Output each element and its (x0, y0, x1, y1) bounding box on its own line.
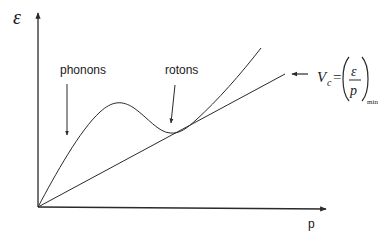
x-axis-label: p (308, 217, 315, 231)
formula-right-paren (362, 57, 368, 101)
phonons-label: phonons (60, 63, 106, 77)
critical-velocity-formula: V c = ε p min (317, 57, 378, 106)
y-axis-label: ε (13, 6, 21, 28)
dispersion-diagram: ε p phonons rotons V c = ε p min (0, 0, 382, 243)
formula-equals: = (333, 69, 341, 85)
formula-denominator: p (349, 83, 357, 98)
formula-lhs-subscript: c (327, 77, 332, 88)
formula-left-paren (343, 57, 349, 101)
tangent-line (38, 74, 285, 207)
formula-numerator: ε (351, 64, 357, 79)
rotons-arrow (171, 85, 175, 123)
x-axis (38, 207, 326, 209)
rotons-label: rotons (165, 63, 198, 77)
formula-subscript: min (367, 98, 378, 106)
